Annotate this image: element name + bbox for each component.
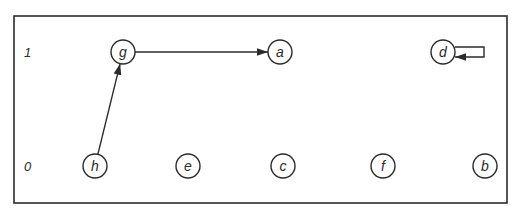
- node-label: a: [276, 44, 284, 60]
- node-a: a: [268, 40, 292, 64]
- node-label: g: [119, 44, 127, 60]
- node-label: c: [280, 158, 287, 174]
- node-f: f: [371, 154, 395, 178]
- node-label: b: [481, 158, 489, 174]
- edge-h-to-g: [98, 64, 120, 155]
- level-labels: 10: [24, 45, 32, 174]
- level-label-0: 0: [24, 159, 32, 174]
- nodes: gadhecfb: [83, 40, 497, 178]
- node-d: d: [431, 40, 455, 64]
- level-label-1: 1: [24, 45, 31, 60]
- node-c: c: [271, 154, 295, 178]
- node-b: b: [473, 154, 497, 178]
- graph-diagram: 10 gadhecfb: [0, 0, 532, 213]
- edge-d-to-d: [455, 47, 484, 57]
- edges: [98, 47, 484, 154]
- node-label: d: [439, 44, 448, 60]
- node-e: e: [176, 154, 200, 178]
- node-g: g: [111, 40, 135, 64]
- node-label: e: [184, 158, 192, 174]
- node-h: h: [83, 154, 107, 178]
- node-label: h: [91, 158, 99, 174]
